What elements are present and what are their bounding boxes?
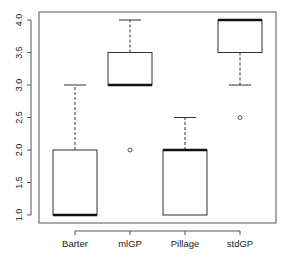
box-stdgp — [218, 20, 262, 120]
x-tick-label: mlGP — [118, 238, 142, 249]
y-tick-label: 1.5 — [14, 176, 24, 189]
box-pillage — [163, 118, 207, 216]
box-barter — [53, 85, 97, 215]
y-tick-label: 3.0 — [14, 79, 24, 92]
boxplot-chart: 1.01.52.02.53.03.54.0 BartermlGPPillages… — [0, 0, 290, 258]
y-tick-label: 2.5 — [14, 111, 24, 124]
x-axis: BartermlGPPillagestdGP — [62, 231, 253, 249]
y-tick-label: 1.0 — [14, 209, 24, 222]
y-tick-label: 4.0 — [14, 14, 24, 27]
outlier-point — [238, 116, 242, 120]
box-mlgp — [108, 20, 152, 152]
boxes — [53, 20, 262, 215]
x-tick-label: Pillage — [171, 238, 200, 249]
x-tick-label: Barter — [62, 238, 88, 249]
outlier-point — [128, 148, 132, 152]
y-tick-label: 2.0 — [14, 144, 24, 157]
y-tick-label: 3.5 — [14, 46, 24, 59]
x-tick-label: stdGP — [227, 238, 253, 249]
y-axis: 1.01.52.02.53.03.54.0 — [14, 14, 31, 222]
